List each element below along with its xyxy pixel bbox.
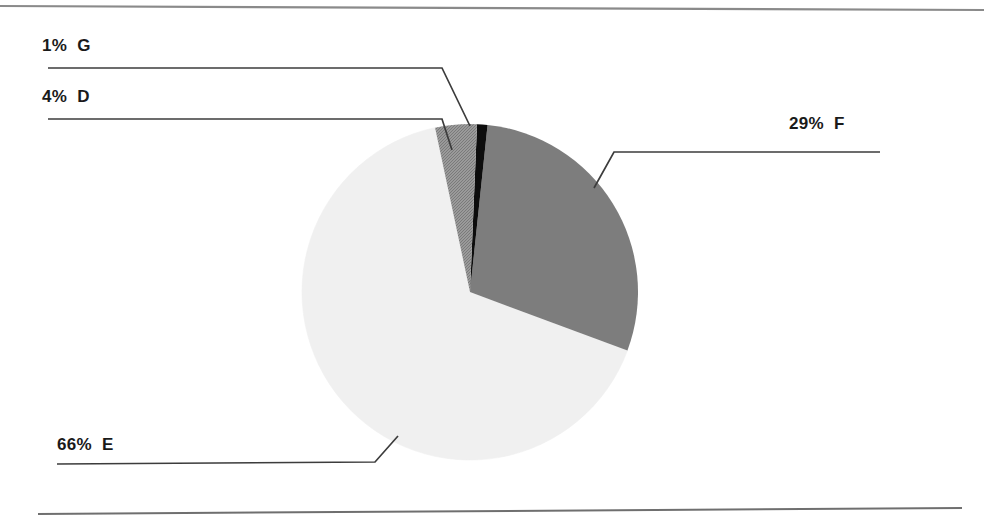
horizontal-rule-bottom [38, 508, 962, 514]
horizontal-rule-top [0, 6, 984, 10]
leader-line-F [594, 152, 880, 188]
pie-label-G: 1% G [42, 36, 91, 56]
pie-chart-page: 1% G 4% D 29% F 66% E [0, 0, 984, 524]
pie-chart-figure [0, 0, 984, 524]
pie-label-F: 29% F [789, 114, 845, 134]
pie-label-E: 66% E [57, 435, 114, 455]
pie-label-D: 4% D [42, 87, 90, 107]
pie-slices-group [302, 124, 638, 460]
leader-line-G [48, 68, 470, 126]
